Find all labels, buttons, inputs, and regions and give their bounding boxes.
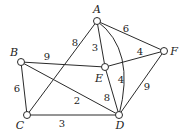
node-f	[161, 48, 168, 55]
edge-f-d	[119, 51, 164, 115]
node-e	[102, 64, 109, 71]
weight-a-c: 8	[72, 37, 78, 48]
weight-e-f: 4	[137, 46, 143, 57]
edge-a-e	[97, 21, 105, 67]
node-label-d: D	[115, 119, 125, 132]
weight-b-d: 2	[74, 95, 80, 106]
weight-c-d: 3	[59, 118, 65, 129]
edge-a-d-curved	[97, 21, 124, 115]
weight-b-c: 6	[14, 83, 20, 94]
node-b	[18, 59, 25, 66]
edge-a-c	[27, 21, 97, 115]
edge-e-f	[105, 51, 164, 67]
node-label-a: A	[92, 3, 101, 16]
weight-f-d: 9	[144, 81, 150, 92]
node-label-e: E	[94, 72, 103, 85]
edge-b-c	[21, 62, 27, 115]
node-a	[94, 18, 101, 25]
graph-diagram: A B C D E F 8 3 6 4 4 9 6 2 8 9 3	[0, 0, 189, 139]
node-label-c: C	[16, 119, 25, 132]
node-c	[24, 112, 31, 119]
weight-a-f: 6	[123, 23, 129, 34]
weight-b-e: 9	[44, 51, 50, 62]
edge-a-f	[97, 21, 164, 51]
weight-e-d: 8	[104, 92, 110, 103]
node-label-b: B	[9, 46, 18, 59]
node-label-f: F	[169, 45, 178, 58]
node-d	[116, 112, 123, 119]
weight-a-d: 4	[118, 74, 124, 85]
weight-a-e: 3	[92, 42, 98, 53]
